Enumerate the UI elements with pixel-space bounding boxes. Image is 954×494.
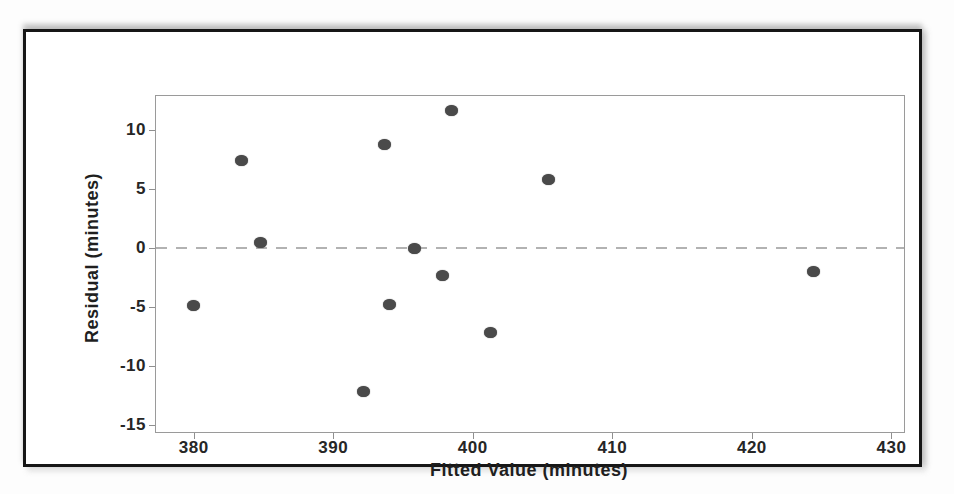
data-point — [378, 139, 391, 150]
x-axis-title: Fitted Value (minutes) — [430, 460, 628, 481]
data-point — [807, 266, 820, 277]
data-point — [484, 327, 497, 338]
zero-reference-line — [156, 247, 904, 249]
data-point — [436, 270, 449, 281]
y-tick-mark — [149, 130, 155, 131]
y-tick-label: -10 — [98, 356, 146, 376]
y-tick-label: 10 — [98, 120, 146, 140]
data-point — [542, 174, 555, 185]
x-tick-label: 430 — [856, 438, 926, 458]
data-point — [187, 300, 200, 311]
data-point — [383, 299, 396, 310]
y-tick-mark — [149, 307, 155, 308]
data-point — [254, 237, 267, 248]
data-point — [235, 155, 248, 166]
y-tick-label: 0 — [98, 238, 146, 258]
x-tick-label: 420 — [717, 438, 787, 458]
y-tick-label: -5 — [98, 297, 146, 317]
plot-area: 3803904004104204301050-5-10-15 — [155, 95, 905, 433]
data-point — [445, 105, 458, 116]
data-point — [408, 243, 421, 254]
x-tick-label: 400 — [438, 438, 508, 458]
y-tick-label: -15 — [98, 415, 146, 435]
data-point — [357, 386, 370, 397]
figure-frame: Residual (minutes) Fitted Value (minutes… — [23, 29, 922, 467]
figure-canvas: Residual (minutes) Fitted Value (minutes… — [0, 0, 954, 494]
x-tick-label: 390 — [298, 438, 368, 458]
x-tick-label: 410 — [577, 438, 647, 458]
y-tick-mark — [149, 189, 155, 190]
y-tick-label: 5 — [98, 179, 146, 199]
y-tick-mark — [149, 425, 155, 426]
x-tick-label: 380 — [159, 438, 229, 458]
y-tick-mark — [149, 366, 155, 367]
y-tick-mark — [149, 248, 155, 249]
